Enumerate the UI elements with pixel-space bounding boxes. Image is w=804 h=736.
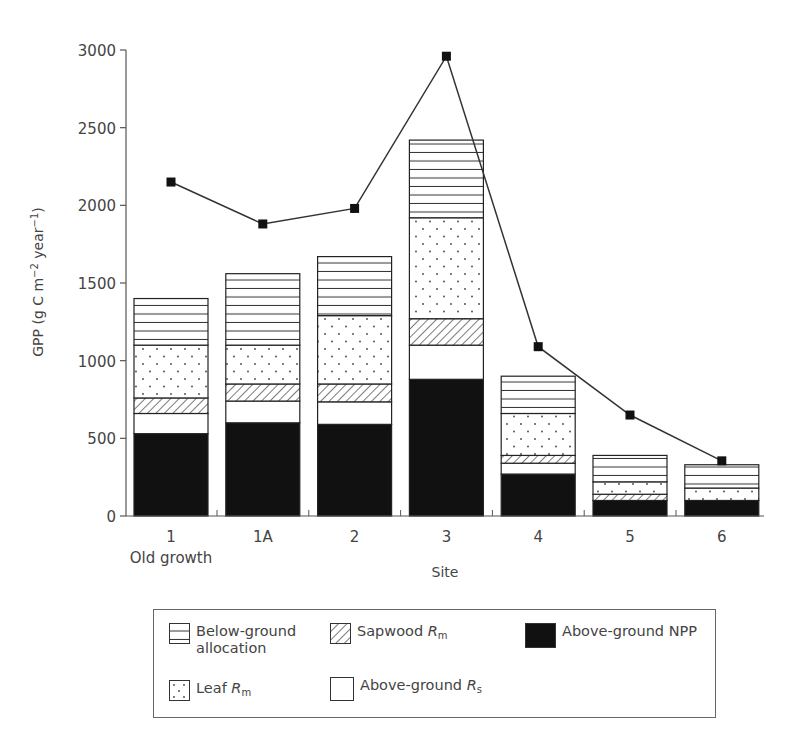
legend-item-rs: Above-ground Rs — [330, 677, 482, 701]
bar-site-3 — [409, 140, 483, 516]
legend-label-sapwood: Sapwood Rm — [357, 623, 448, 644]
x-tick-label: 5 — [625, 528, 635, 546]
bar-segment-above-ground-npp — [685, 500, 759, 516]
legend-label-below-ground: Below-groundallocation — [196, 623, 296, 657]
bar-segment-sapwood-rm — [501, 455, 575, 463]
y-axis-title: GPP (g C m−2 year−1) — [29, 207, 46, 357]
bar-segment-above-ground-npp — [409, 379, 483, 516]
bar-segment-above-ground-rs — [318, 402, 392, 425]
bar-segment-sapwood-rm — [134, 398, 208, 414]
bar-segment-below-ground-allocation — [226, 274, 300, 345]
x-tick-label: 6 — [717, 528, 727, 546]
bar-site-1a — [226, 274, 300, 516]
bar-segment-sapwood-rm — [226, 384, 300, 401]
gpp-marker-5 — [626, 411, 635, 420]
x-tick-label: 3 — [442, 528, 452, 546]
bar-segment-above-ground-npp — [134, 434, 208, 516]
bar-segment-below-ground-allocation — [134, 299, 208, 346]
stacked-bars — [134, 140, 759, 516]
bar-segment-above-ground-npp — [226, 423, 300, 516]
chart: 05001000150020002500300011A23456Old grow… — [0, 0, 804, 600]
legend-label-npp: Above-ground NPP — [562, 623, 697, 640]
bar-site-4 — [501, 376, 575, 516]
bar-segment-below-ground-allocation — [501, 376, 575, 413]
legend-item-leaf: Leaf Rm — [169, 680, 251, 701]
horizontal-lines-swatch-icon — [169, 623, 190, 644]
bar-segment-leaf-rm — [134, 345, 208, 398]
bar-site-1 — [134, 299, 208, 516]
solid-black-swatch-icon — [525, 623, 556, 648]
bar-segment-leaf-rm — [226, 345, 300, 384]
legend-item-npp: Above-ground NPP — [525, 623, 697, 648]
legend-item-below-ground: Below-groundallocation — [169, 623, 296, 657]
gpp-marker-1 — [167, 178, 176, 187]
diagonal-hatch-swatch-icon — [330, 623, 351, 644]
bar-segment-below-ground-allocation — [318, 257, 392, 316]
bar-segment-above-ground-npp — [501, 474, 575, 516]
bar-segment-sapwood-rm — [318, 384, 392, 402]
bar-segment-above-ground-rs — [134, 413, 208, 433]
x-tick-label: 1A — [253, 528, 274, 546]
gpp-marker-1a — [258, 219, 267, 228]
y-tick-label: 500 — [87, 430, 116, 448]
legend-label-rs: Above-ground Rs — [360, 677, 482, 698]
legend: Below-groundallocation Sapwood Rm Above-… — [153, 609, 716, 718]
bar-segment-above-ground-rs — [501, 463, 575, 474]
bar-segment-above-ground-rs — [226, 401, 300, 423]
dots-swatch-icon — [169, 680, 190, 701]
bar-segment-above-ground-npp — [318, 424, 392, 516]
y-tick-label: 2500 — [78, 120, 116, 138]
bar-segment-above-ground-rs — [409, 345, 483, 379]
x-axis-title: Site — [432, 564, 459, 580]
gpp-marker-4 — [534, 342, 543, 351]
bar-segment-leaf-rm — [409, 218, 483, 319]
white-swatch-icon — [330, 677, 354, 701]
bar-segment-above-ground-npp — [593, 500, 667, 516]
bar-segment-sapwood-rm — [593, 494, 667, 500]
legend-item-sapwood: Sapwood Rm — [330, 623, 448, 644]
y-tick-label: 3000 — [78, 42, 116, 60]
bar-segment-below-ground-allocation — [685, 465, 759, 488]
bar-segment-leaf-rm — [501, 413, 575, 455]
gpp-marker-6 — [717, 456, 726, 465]
bar-site-5 — [593, 455, 667, 516]
bar-segment-leaf-rm — [685, 488, 759, 500]
x-tick-label: 2 — [350, 528, 360, 546]
bar-segment-leaf-rm — [318, 316, 392, 384]
bar-segment-below-ground-allocation — [593, 455, 667, 481]
y-tick-label: 0 — [106, 508, 116, 526]
legend-label-leaf: Leaf Rm — [196, 680, 251, 701]
bar-segment-leaf-rm — [593, 482, 667, 494]
bar-segment-sapwood-rm — [409, 319, 483, 345]
x-tick-label: 1 — [166, 528, 176, 546]
x-tick-label: 4 — [533, 528, 543, 546]
bar-segment-below-ground-allocation — [409, 140, 483, 218]
bar-site-2 — [318, 257, 392, 516]
gpp-marker-2 — [350, 204, 359, 213]
y-tick-label: 1500 — [78, 275, 116, 293]
y-tick-label: 1000 — [78, 353, 116, 371]
y-tick-label: 2000 — [78, 197, 116, 215]
bar-site-6 — [685, 465, 759, 516]
gpp-marker-3 — [442, 52, 451, 61]
x-sublabel-old-growth: Old growth — [130, 549, 212, 567]
